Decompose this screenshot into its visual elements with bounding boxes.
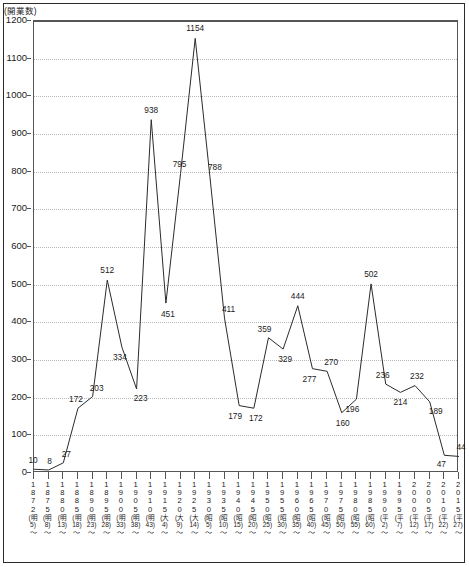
data-point-value: 196 (345, 405, 359, 414)
x-label-year-digit: 5 (305, 506, 318, 514)
x-label-year-digit: 5 (158, 506, 171, 514)
x-label-era-name: (昭 (320, 514, 333, 521)
data-point-value: 179 (228, 411, 242, 420)
data-point-labels: 1082717220351233422393845179511547884111… (34, 21, 457, 471)
x-label-year-digit: 0 (408, 506, 421, 514)
x-tick-mark (121, 472, 122, 479)
data-point-value: 359 (258, 324, 272, 333)
x-label-era-name: (昭 (232, 514, 245, 521)
x-tick-label: 1965(昭40)〜 (305, 481, 318, 537)
x-label-range-tilde: 〜 (261, 529, 274, 537)
x-tick-mark (385, 472, 386, 479)
x-tick-label: 1955(昭30)〜 (276, 481, 289, 537)
x-label-era-name: (昭 (202, 514, 215, 521)
x-label-era-number: 50) (334, 521, 347, 528)
y-tick-mark (27, 284, 31, 285)
x-label-year-digit: 0 (261, 506, 274, 514)
y-tick-label: 1100 (7, 53, 27, 63)
data-point-value: 444 (291, 291, 305, 300)
x-label-era-number: 5) (202, 521, 215, 528)
x-label-era-name: (平 (393, 514, 406, 521)
x-label-year-digit: 0 (290, 506, 303, 514)
x-label-range-tilde: 〜 (144, 529, 157, 537)
x-label-range-tilde: 〜 (70, 529, 83, 537)
x-label-era-name: (平 (408, 514, 421, 521)
x-label-era-number: 38) (129, 521, 142, 528)
data-point-value: 277 (303, 374, 317, 383)
x-tick-label: 1935(昭10)〜 (217, 481, 230, 537)
x-label-range-tilde: 〜 (232, 529, 245, 537)
y-axis-tick-labels: 0100200300400500600700800900100011001200 (0, 20, 31, 472)
x-tick-mark (414, 472, 415, 479)
x-tick-mark (399, 472, 400, 479)
x-tick-label: 1885(明18)〜 (70, 481, 83, 537)
y-tick-label: 300 (11, 354, 27, 364)
x-tick-label: 1990(平2)〜 (378, 481, 391, 537)
x-axis-tick-labels: 1872(明5)〜1875(明8)〜1880(明13)〜1885(明18)〜18… (33, 481, 458, 565)
x-label-era-name: (昭 (246, 514, 259, 521)
x-label-range-tilde: 〜 (305, 529, 318, 537)
x-label-year-digit: 5 (70, 506, 83, 514)
x-label-era-name: (大 (158, 514, 171, 521)
data-point-value: 270 (324, 358, 338, 367)
chart-figure: (開業数) 0100200300400500600700800900100011… (0, 0, 469, 567)
data-point-value: 502 (364, 269, 378, 278)
x-tick-label: 1970(昭45)〜 (320, 481, 333, 537)
plot-area: 1082717220351233422393845179511547884111… (33, 20, 458, 472)
x-label-era-number: 17) (422, 521, 435, 528)
x-tick-label: 2005(平17)〜 (422, 481, 435, 537)
x-label-era-number: 22) (437, 521, 450, 528)
x-tick-mark (62, 472, 63, 479)
x-tick-label: 1995(平7)〜 (393, 481, 406, 537)
x-label-year-digit: 2 (27, 506, 40, 514)
x-tick-mark (458, 472, 459, 479)
x-label-era-number: 20) (246, 521, 259, 528)
x-label-range-tilde: 〜 (408, 529, 421, 537)
x-tick-mark (77, 472, 78, 479)
x-label-era-name: (明 (114, 514, 127, 521)
x-tick-mark (443, 472, 444, 479)
x-tick-mark (429, 472, 430, 479)
x-label-era-name: (明 (27, 514, 40, 521)
x-label-era-name: (昭 (217, 514, 230, 521)
x-label-range-tilde: 〜 (334, 529, 347, 537)
x-label-era-name: (明 (85, 514, 98, 521)
x-label-era-number: 25) (261, 521, 274, 528)
y-tick-label: 200 (11, 392, 27, 402)
x-label-era-number: 60) (364, 521, 377, 528)
x-label-era-number: 5) (27, 521, 40, 528)
data-point-value: 172 (249, 414, 263, 423)
x-label-era-name: (明 (144, 514, 157, 521)
x-label-range-tilde: 〜 (100, 529, 113, 537)
x-tick-label: 2015(平27)〜 (452, 481, 465, 537)
x-tick-mark (106, 472, 107, 479)
x-tick-mark (355, 472, 356, 479)
data-point-value: 1154 (186, 24, 204, 33)
y-tick-label: 600 (11, 241, 27, 251)
y-tick-label: 800 (11, 166, 27, 176)
x-label-year-digit: 5 (129, 506, 142, 514)
x-label-era-name: (大 (173, 514, 186, 521)
x-label-year-digit: 0 (320, 506, 333, 514)
x-label-era-name: (明 (56, 514, 69, 521)
x-label-year-digit: 0 (114, 506, 127, 514)
data-point-value: 160 (336, 418, 350, 427)
y-tick-label: 900 (11, 128, 27, 138)
x-tick-mark (267, 472, 268, 479)
x-tick-mark (209, 472, 210, 479)
x-tick-label: 1975(昭50)〜 (334, 481, 347, 537)
x-tick-mark (194, 472, 195, 479)
x-tick-label: 1910(明43)〜 (144, 481, 157, 537)
x-label-year-digit: 5 (364, 506, 377, 514)
x-label-range-tilde: 〜 (276, 529, 289, 537)
x-label-year-digit: 0 (173, 506, 186, 514)
x-label-era-name: (昭 (290, 514, 303, 521)
x-tick-label: 1940(昭15)〜 (232, 481, 245, 537)
x-label-era-number: 28) (100, 521, 113, 528)
x-label-era-name: (明 (100, 514, 113, 521)
x-label-range-tilde: 〜 (349, 529, 362, 537)
x-label-year-digit: 5 (100, 506, 113, 514)
x-label-year-digit: 0 (232, 506, 245, 514)
x-label-era-number: 14) (188, 521, 201, 528)
x-label-range-tilde: 〜 (246, 529, 259, 537)
